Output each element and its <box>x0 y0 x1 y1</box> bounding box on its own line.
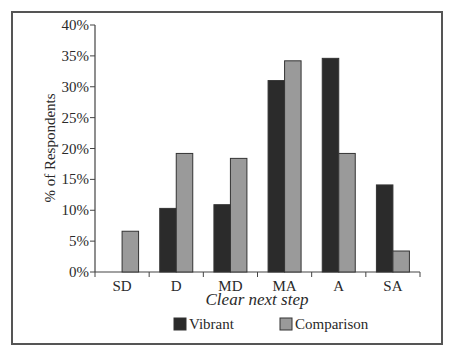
bar-comparison-md <box>230 158 247 272</box>
y-tick-label: 40% <box>62 17 90 33</box>
bars <box>122 58 409 272</box>
x-tick-label: D <box>171 278 182 294</box>
bar-vibrant-sa <box>376 185 393 272</box>
legend-label-vibrant: Vibrant <box>189 316 235 332</box>
bar-comparison-sa <box>393 251 410 272</box>
y-tick-label: 35% <box>62 48 90 64</box>
y-tick-label: 15% <box>62 171 90 187</box>
legend-swatch-comparison <box>280 318 292 330</box>
y-axis: 0%5%10%15%20%25%30%35%40% <box>62 17 96 280</box>
bar-chart: 0%5%10%15%20%25%30%35%40% SDDMDMAASA % o… <box>0 0 455 355</box>
x-tick-label: SA <box>383 278 402 294</box>
y-axis-title: % of Respondents <box>42 93 58 202</box>
y-tick-label: 5% <box>69 233 89 249</box>
y-tick-label: 0% <box>69 264 89 280</box>
bar-vibrant-ma <box>268 81 285 272</box>
legend-swatch-vibrant <box>174 318 186 330</box>
bar-vibrant-md <box>214 205 231 272</box>
legend-label-comparison: Comparison <box>295 316 369 332</box>
x-tick-label: SD <box>112 278 131 294</box>
x-tick-label: A <box>333 278 344 294</box>
y-tick-label: 20% <box>62 141 90 157</box>
y-tick-label: 25% <box>62 110 90 126</box>
bar-vibrant-d <box>160 208 177 272</box>
bar-comparison-a <box>339 153 356 272</box>
bar-comparison-sd <box>122 231 139 272</box>
bar-comparison-d <box>176 153 193 272</box>
x-axis-title: Clear next step <box>206 290 309 309</box>
y-tick-label: 30% <box>62 79 90 95</box>
bar-comparison-ma <box>285 61 302 272</box>
bar-vibrant-a <box>322 58 339 272</box>
y-tick-label: 10% <box>62 202 90 218</box>
legend: VibrantComparison <box>174 316 369 332</box>
